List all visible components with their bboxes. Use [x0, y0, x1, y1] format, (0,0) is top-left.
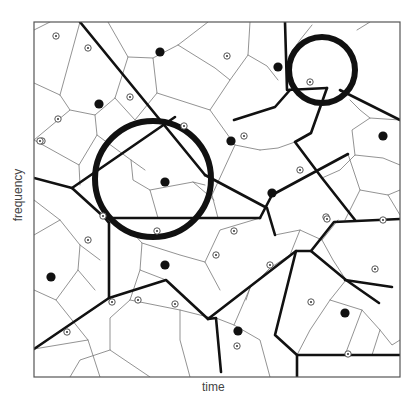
ringed-point: [380, 217, 386, 223]
ringed-point: [213, 252, 219, 258]
thin-edge: [60, 22, 80, 95]
thin-edge: [70, 350, 110, 377]
thin-edge: [216, 318, 270, 377]
ringed-point: [224, 53, 230, 59]
ringed-point: [85, 45, 91, 51]
y-axis-label: frequency: [11, 165, 25, 225]
ringed-point: [234, 343, 240, 349]
ringed-point: [135, 297, 141, 303]
thin-edge: [34, 245, 80, 300]
ringed-point: [345, 351, 351, 357]
filled-point: [226, 136, 235, 145]
ringed-point: [172, 301, 178, 307]
ringed-point: [307, 79, 313, 85]
thick-edge: [340, 90, 400, 120]
filled-point: [160, 260, 169, 269]
ringed-point: [37, 138, 43, 144]
filled-point: [378, 131, 387, 140]
ringed-point: [55, 116, 61, 122]
thin-edge: [34, 220, 60, 235]
filled-point: [160, 177, 169, 186]
filled-point: [273, 62, 282, 71]
ringed-point: [85, 237, 91, 243]
thin-edge: [388, 195, 400, 215]
filled-point: [94, 99, 103, 108]
filled-point: [155, 47, 164, 56]
thin-edge: [230, 22, 250, 80]
ringed-point: [53, 33, 59, 39]
thin-edge: [348, 154, 400, 195]
ringed-point: [297, 167, 303, 173]
thick-edge: [234, 90, 290, 120]
thin-edge: [297, 280, 346, 355]
thin-edge: [372, 330, 380, 355]
thick-edge: [311, 219, 400, 251]
ringed-point: [231, 228, 237, 234]
thin-edge: [330, 300, 400, 345]
ringed-point: [127, 94, 133, 100]
thick-edge: [260, 154, 348, 218]
thin-edge: [56, 300, 100, 377]
filled-point: [46, 272, 55, 281]
thin-edge: [322, 155, 400, 178]
filled-point: [340, 308, 349, 317]
thick-edge: [275, 251, 297, 377]
thick-edge: [205, 175, 275, 235]
thin-edge: [210, 110, 260, 150]
highlight-circles: [95, 37, 355, 237]
ringed-point: [64, 329, 70, 335]
ringed-point: [154, 228, 160, 234]
filled-point: [233, 326, 242, 335]
thin-edge: [34, 22, 50, 30]
ringed-point: [241, 133, 247, 139]
highlight-circle: [95, 121, 211, 237]
ringed-point: [308, 299, 314, 305]
thin-edge: [352, 118, 400, 155]
ringed-point: [267, 262, 273, 268]
thin-edge: [150, 182, 205, 190]
ringed-point: [372, 266, 378, 272]
thick-voronoi-edges: [34, 22, 400, 377]
thin-edge: [34, 83, 70, 140]
thin-edge: [157, 45, 230, 110]
voronoi-figure: [0, 0, 418, 406]
ringed-point: [181, 123, 187, 129]
thin-edge: [130, 300, 212, 318]
thick-edge: [109, 280, 221, 372]
ringed-point: [109, 299, 115, 305]
thin-edge: [180, 310, 190, 377]
highlight-circle: [289, 37, 355, 103]
thin-edge: [357, 22, 370, 30]
ringed-point: [100, 213, 106, 219]
filled-point: [267, 188, 276, 197]
thin-edge: [34, 200, 100, 260]
x-axis-label: time: [202, 380, 225, 394]
thin-edge: [78, 270, 95, 290]
thin-edge: [260, 142, 295, 150]
ringed-point: [324, 216, 330, 222]
